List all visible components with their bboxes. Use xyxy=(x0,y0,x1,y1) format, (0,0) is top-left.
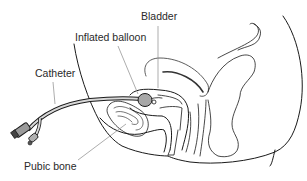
inflated-balloon xyxy=(138,94,152,107)
label-pubic-bone: Pubic bone xyxy=(24,160,77,172)
leader-balloon xyxy=(118,46,138,94)
thigh-line xyxy=(270,150,275,166)
label-bladder: Bladder xyxy=(141,10,177,22)
label-catheter: Catheter xyxy=(35,67,75,79)
colon-upper xyxy=(218,23,258,58)
uterus-outline xyxy=(145,58,209,96)
urethra-line-1 xyxy=(168,130,178,155)
anatomy-illustration xyxy=(0,0,307,181)
leader-pubic-bone xyxy=(78,124,126,160)
uterus-inner-line xyxy=(163,72,203,92)
catheter-diagram: Bladder Inflated balloon Catheter Pubic … xyxy=(0,0,307,181)
vaginal-wall-2 xyxy=(194,104,199,154)
label-inflated-balloon: Inflated balloon xyxy=(75,31,146,43)
pubic-bone-texture xyxy=(114,106,143,130)
bladder-front-wall xyxy=(130,108,172,150)
pubic-region-line xyxy=(100,118,166,152)
vaginal-wall-3 xyxy=(200,100,206,156)
catheter-tip xyxy=(152,100,156,104)
leader-catheter xyxy=(53,82,55,104)
rectum-outline xyxy=(208,55,255,157)
balloon-valve-cap xyxy=(28,141,32,145)
back-outline xyxy=(168,16,302,163)
